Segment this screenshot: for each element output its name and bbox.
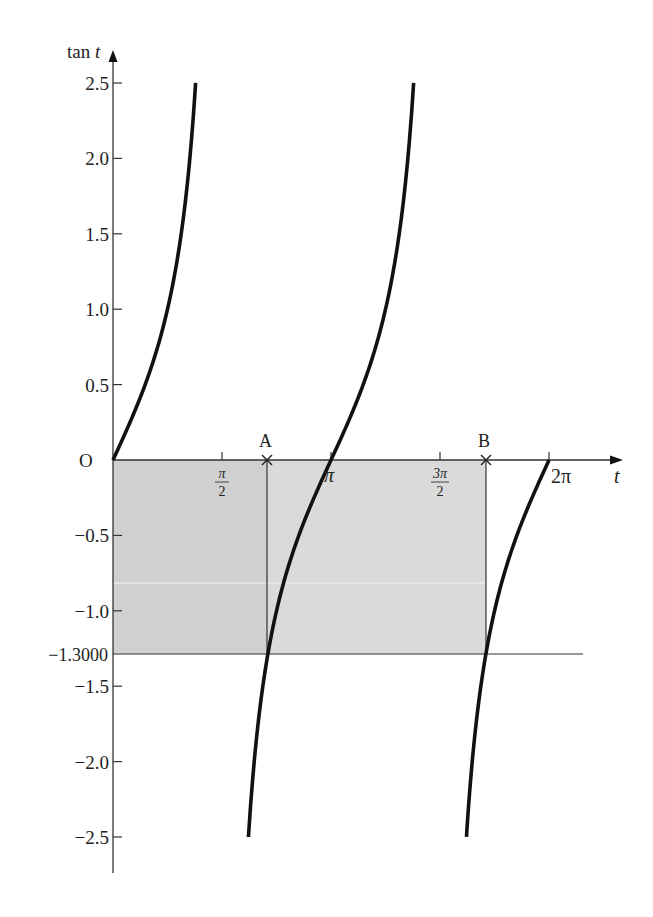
y-tick-label: 0.5 bbox=[85, 375, 109, 396]
y-axis-arrow-icon bbox=[109, 50, 118, 62]
x-axis-arrow-icon bbox=[610, 456, 623, 465]
hline-value-label: −1.3000 bbox=[48, 645, 108, 665]
tan-curve-branch-1 bbox=[113, 83, 196, 460]
x-axis-label: t bbox=[614, 465, 620, 487]
x-tick-label-three-pi-half-num: 3π bbox=[432, 466, 448, 481]
x-tick-label-pi-half-den: 2 bbox=[219, 484, 226, 499]
y-tick-label: −2.5 bbox=[75, 827, 109, 848]
y-tick-label: 2.0 bbox=[85, 148, 109, 169]
y-axis-label: tan t bbox=[67, 41, 101, 62]
point-b-label: B bbox=[478, 431, 490, 451]
y-tick-label: −1.0 bbox=[75, 601, 109, 622]
shaded-region-right bbox=[267, 460, 486, 654]
shaded-region-left bbox=[113, 460, 267, 654]
x-tick-label-two-pi: 2π bbox=[551, 465, 571, 487]
x-tick-label-pi-half-num: π bbox=[218, 466, 226, 481]
y-tick-label: −1.5 bbox=[75, 676, 109, 697]
x-tick-label-pi: π bbox=[324, 464, 335, 486]
point-a-label: A bbox=[259, 431, 272, 451]
y-tick-label: −2.0 bbox=[75, 752, 109, 773]
y-tick-label: 1.5 bbox=[85, 224, 109, 245]
y-tick-label: −0.5 bbox=[75, 525, 109, 546]
x-tick-label-three-pi-half-den: 2 bbox=[437, 484, 444, 499]
y-tick-label: 1.0 bbox=[85, 299, 109, 320]
y-tick-label: 2.5 bbox=[85, 73, 109, 94]
tan-chart: tan t t O A B π 2 π 3π 2 2π −1.3000 2.52… bbox=[0, 0, 653, 917]
origin-label: O bbox=[79, 450, 93, 471]
